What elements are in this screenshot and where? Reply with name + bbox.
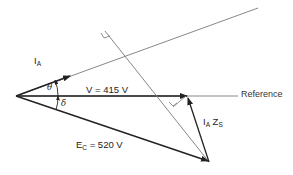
delta-arc [56, 96, 58, 110]
reference-label: Reference [241, 90, 283, 99]
emf-label: EC = 520 V [76, 140, 123, 152]
delta-label: δ [61, 99, 66, 108]
current-phasor [16, 76, 70, 96]
impedance-drop-label: IA ZS [203, 117, 223, 129]
voltage-label: V = 415 V [86, 85, 128, 95]
phasor-diagram: IA θ V = 415 V δ Reference EC = 520 V IA… [0, 0, 293, 175]
theta-label: θ [47, 83, 52, 92]
theta-arc [55, 80, 58, 96]
impedance-drop-phasor [188, 98, 209, 162]
current-label: IA [34, 56, 41, 68]
projection-line [173, 96, 186, 107]
phasor-svg [0, 0, 293, 175]
right-angle-marker-lower [169, 102, 177, 106]
